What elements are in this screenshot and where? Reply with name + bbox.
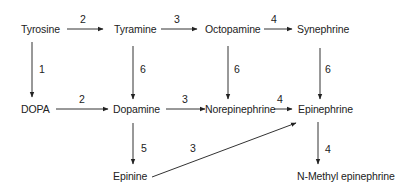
node-synephrine: Synephrine	[297, 23, 349, 35]
edge-label-tyramine-dopamine: 6	[140, 63, 146, 75]
edge-label-octopamine-synephrine: 4	[271, 13, 277, 25]
edge-label-dopa-dopamine: 2	[79, 93, 85, 105]
edge-label-norepinephrine-epinephrine: 4	[277, 93, 283, 105]
node-dopamine: Dopamine	[113, 103, 160, 115]
edge-label-tyrosine-dopa: 1	[39, 63, 45, 75]
node-epinephrine: Epinephrine	[298, 103, 353, 115]
edge-label-epinephrine-n-methyl: 4	[325, 143, 331, 155]
edge-epinine-epinephrine	[152, 123, 296, 177]
edge-label-synephrine-epinephrine: 6	[325, 63, 331, 75]
node-tyramine: Tyramine	[114, 23, 156, 35]
edge-label-tyramine-octopamine: 3	[174, 13, 180, 25]
edge-label-octopamine-norepinephrine: 6	[234, 63, 240, 75]
node-n-methyl-epinephrine: N-Methyl epinephrine	[297, 170, 395, 182]
node-octopamine: Octopamine	[205, 23, 261, 35]
edge-label-dopamine-epinine: 5	[141, 142, 147, 154]
edge-label-epinine-epinephrine: 3	[190, 142, 196, 154]
node-dopa: DOPA	[21, 103, 50, 115]
node-epinine: Epinine	[113, 170, 147, 182]
node-tyrosine: Tyrosine	[21, 23, 60, 35]
edge-label-dopamine-norepinephrine: 3	[182, 93, 188, 105]
edge-label-tyrosine-tyramine: 2	[80, 13, 86, 25]
node-norepinephrine: Norepinephrine	[205, 103, 275, 115]
